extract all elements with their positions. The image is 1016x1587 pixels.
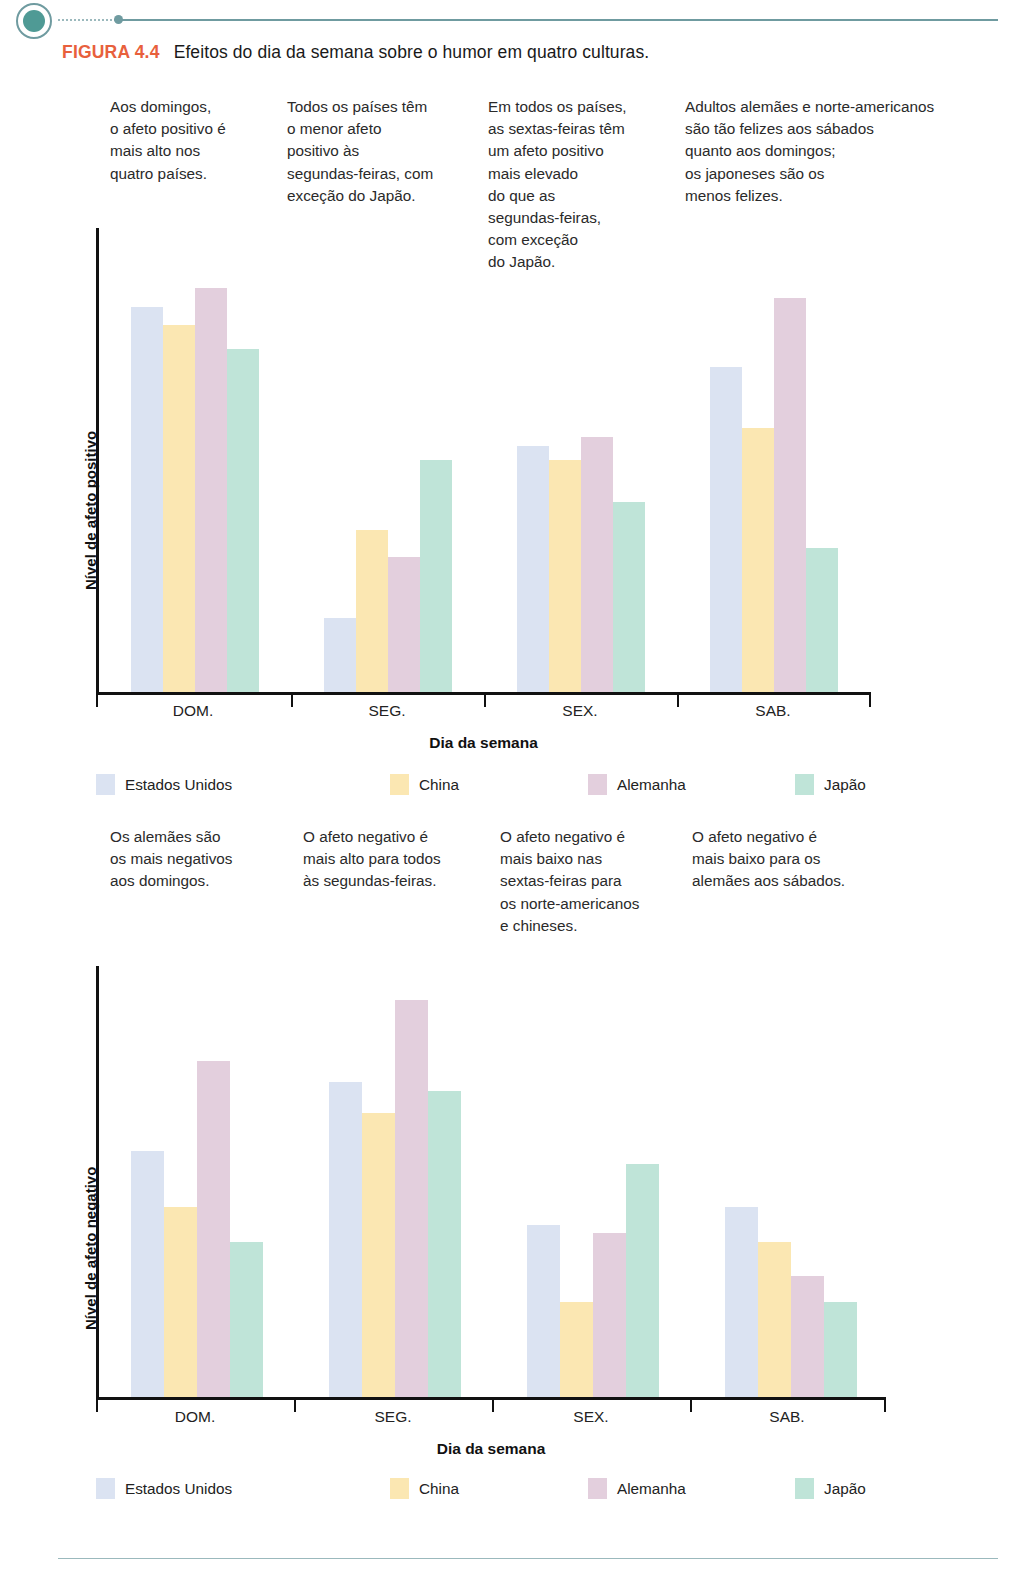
chart2-tick-3 bbox=[690, 1400, 692, 1412]
chart2-legend-label-china: China bbox=[419, 1480, 459, 1498]
chart2-xtick-label-1: SEG. bbox=[328, 1408, 458, 1426]
bar-chart-negative-affect-sex-japão bbox=[626, 1164, 659, 1397]
chart2-legend-swatch-china bbox=[390, 1478, 409, 1499]
chart2-legend-swatch-alemanha bbox=[588, 1478, 607, 1499]
bar-chart-negative-affect-dom-japão bbox=[230, 1242, 263, 1397]
chart2-legend-label-estados-unidos: Estados Unidos bbox=[125, 1480, 232, 1498]
bar-chart-negative-affect-seg-japão bbox=[428, 1091, 461, 1397]
chart2-xtick-label-3: SAB. bbox=[722, 1408, 852, 1426]
bar-chart-negative-affect-seg-alemanha bbox=[395, 1000, 428, 1397]
chart2-xtick-label-2: SEX. bbox=[526, 1408, 656, 1426]
bar-chart-negative-affect-dom-estados-unidos bbox=[131, 1151, 164, 1397]
bar-chart-negative-affect-dom-alemanha bbox=[197, 1061, 230, 1397]
chart2-legend-item-japao[interactable]: Japão bbox=[795, 1478, 866, 1499]
bar-chart-negative-affect-sex-alemanha bbox=[593, 1233, 626, 1397]
bar-chart-negative-affect-sab-estados-unidos bbox=[725, 1207, 758, 1397]
chart2-legend-swatch-japao bbox=[795, 1478, 814, 1499]
chart2-legend-label-alemanha: Alemanha bbox=[617, 1480, 686, 1498]
bar-chart-negative-affect-seg-china bbox=[362, 1113, 395, 1397]
chart2-legend: Estados Unidos China Alemanha Japão bbox=[96, 1478, 986, 1504]
chart2-x-axis bbox=[96, 1397, 886, 1400]
chart2-tick-2 bbox=[492, 1400, 494, 1412]
bar-chart-negative-affect-dom-china bbox=[164, 1207, 197, 1397]
chart-negative-affect: Nível de afeto negativo DOM. SEG. SEX. S… bbox=[0, 0, 1016, 1587]
bar-chart-negative-affect-sab-china bbox=[758, 1242, 791, 1397]
chart2-legend-item-china[interactable]: China bbox=[390, 1478, 459, 1499]
bar-chart-negative-affect-seg-estados-unidos bbox=[329, 1082, 362, 1397]
bar-chart-negative-affect-sex-china bbox=[560, 1302, 593, 1397]
chart2-legend-swatch-estados-unidos bbox=[96, 1478, 115, 1499]
figure-page: FIGURA 4.4Efeitos do dia da semana sobre… bbox=[0, 0, 1016, 1587]
page-footer-rule bbox=[58, 1558, 998, 1559]
chart2-tick-1 bbox=[294, 1400, 296, 1412]
chart2-tick-0 bbox=[96, 1400, 98, 1412]
chart2-plot-area bbox=[99, 966, 884, 1397]
chart2-x-axis-title: Dia da semana bbox=[96, 1440, 886, 1458]
chart2-legend-label-japao: Japão bbox=[824, 1480, 866, 1498]
chart2-legend-item-estados-unidos[interactable]: Estados Unidos bbox=[96, 1478, 232, 1499]
chart2-xtick-label-0: DOM. bbox=[130, 1408, 260, 1426]
chart2-legend-item-alemanha[interactable]: Alemanha bbox=[588, 1478, 686, 1499]
chart2-tick-4 bbox=[884, 1400, 886, 1412]
bar-chart-negative-affect-sex-estados-unidos bbox=[527, 1225, 560, 1397]
bar-chart-negative-affect-sab-alemanha bbox=[791, 1276, 824, 1397]
bar-chart-negative-affect-sab-japão bbox=[824, 1302, 857, 1397]
